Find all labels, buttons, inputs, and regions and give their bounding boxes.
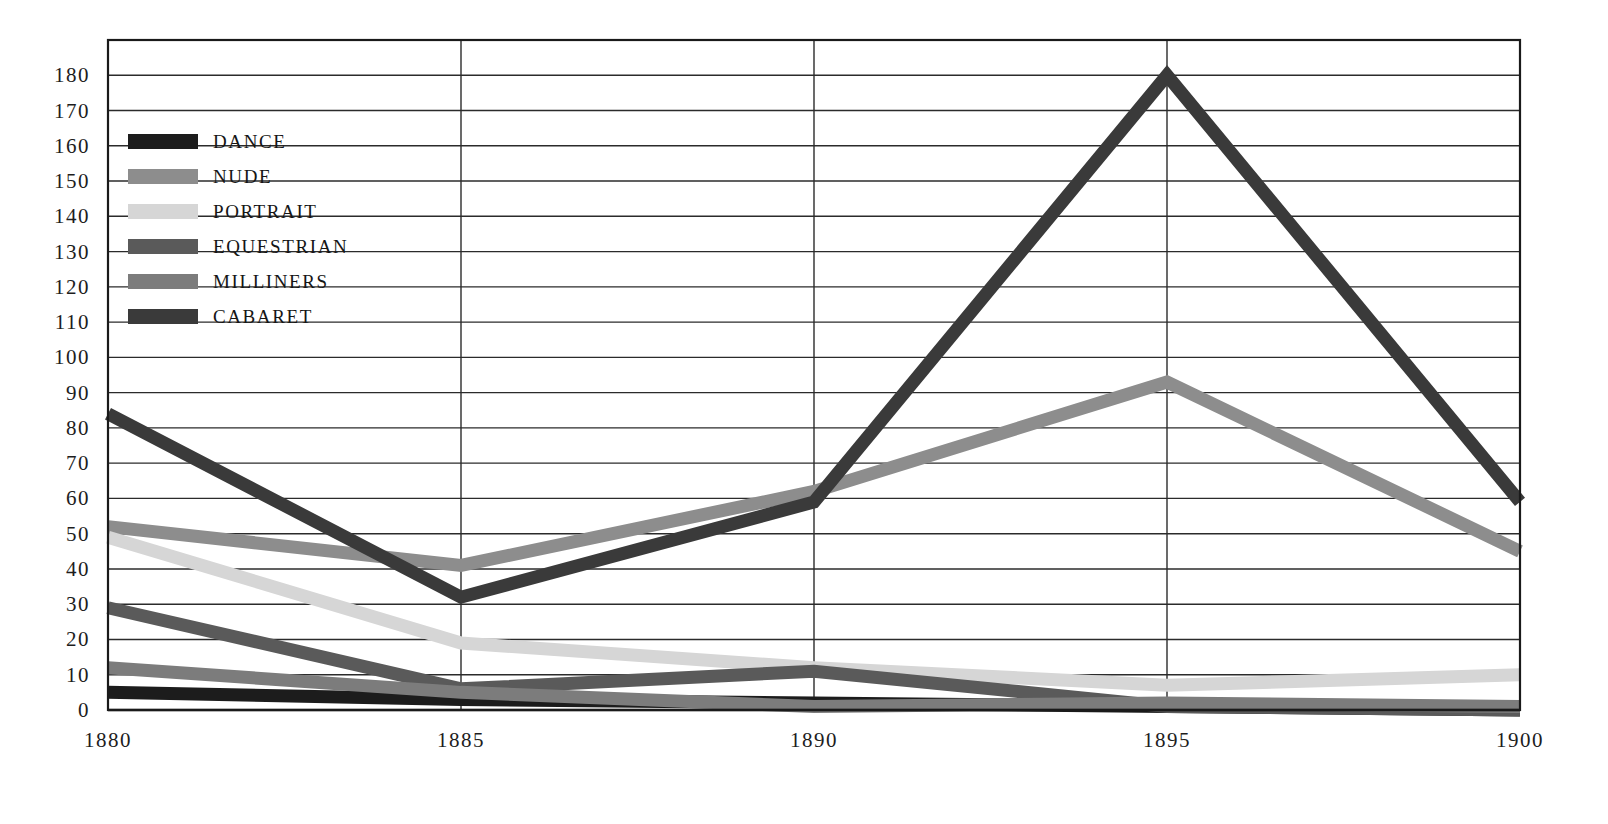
x-axis-tick-label: 1880 (38, 728, 178, 753)
y-axis-tick-label: 170 (20, 98, 90, 123)
legend-item-milliners[interactable]: MILLINERS (128, 264, 428, 299)
y-axis-tick-label: 80 (20, 415, 90, 440)
x-axis-tick-label: 1890 (744, 728, 884, 753)
legend-item-label: DANCE (213, 131, 286, 153)
y-axis-tick-label: 160 (20, 133, 90, 158)
legend-swatch-icon (128, 134, 198, 149)
legend-item-nude[interactable]: NUDE (128, 159, 428, 194)
y-axis-tick-label: 20 (20, 627, 90, 652)
y-axis-tick-label: 180 (20, 63, 90, 88)
y-axis-tick-label: 10 (20, 662, 90, 687)
x-axis-tick-label: 1885 (391, 728, 531, 753)
y-axis-tick-label: 120 (20, 274, 90, 299)
legend-item-cabaret[interactable]: CABARET (128, 299, 428, 334)
x-axis-tick-label: 1900 (1450, 728, 1590, 753)
chart-legend: DANCENUDEPORTRAITEQUESTRIANMILLINERSCABA… (128, 124, 428, 334)
y-axis-tick-label: 70 (20, 451, 90, 476)
y-axis-tick-label: 50 (20, 521, 90, 546)
y-axis-tick-label: 130 (20, 239, 90, 264)
legend-swatch-icon (128, 309, 198, 324)
y-axis-tick-label: 90 (20, 380, 90, 405)
y-axis-tick-label: 60 (20, 486, 90, 511)
line-chart: 0102030405060708090100110120130140150160… (0, 0, 1608, 824)
legend-item-label: PORTRAIT (213, 201, 318, 223)
y-axis-tick-label: 30 (20, 592, 90, 617)
legend-item-dance[interactable]: DANCE (128, 124, 428, 159)
y-axis-tick-label: 110 (20, 310, 90, 335)
legend-item-label: CABARET (213, 306, 313, 328)
legend-swatch-icon (128, 204, 198, 219)
legend-swatch-icon (128, 274, 198, 289)
y-axis-tick-label: 40 (20, 556, 90, 581)
legend-swatch-icon (128, 239, 198, 254)
y-axis-tick-label: 140 (20, 204, 90, 229)
legend-item-label: MILLINERS (213, 271, 329, 293)
legend-item-equestrian[interactable]: EQUESTRIAN (128, 229, 428, 264)
y-axis-tick-label: 100 (20, 345, 90, 370)
y-axis-tick-label: 150 (20, 169, 90, 194)
legend-item-label: NUDE (213, 166, 272, 188)
x-axis-tick-label: 1895 (1097, 728, 1237, 753)
legend-swatch-icon (128, 169, 198, 184)
y-axis-tick-label: 0 (20, 698, 90, 723)
legend-item-portrait[interactable]: PORTRAIT (128, 194, 428, 229)
legend-item-label: EQUESTRIAN (213, 236, 348, 258)
